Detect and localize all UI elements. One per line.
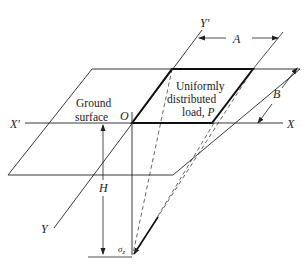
dimension-b-top-arrow — [282, 68, 297, 88]
y-label: Y — [41, 222, 49, 236]
stress-sigma-z-label: σz — [118, 244, 125, 255]
x-label: X — [286, 117, 295, 131]
load-label-line1: Uniformly — [176, 80, 225, 93]
load-p-label: P — [207, 106, 215, 118]
load-label-line3: load, P — [182, 106, 215, 119]
load-label-line2: distributed — [167, 93, 216, 105]
dimension-a-label: A — [232, 32, 241, 46]
y-prime-label: Y′ — [200, 16, 210, 30]
dimension-a-extension — [253, 32, 283, 69]
dimension-b-label: B — [273, 87, 281, 101]
origin-label: O — [120, 109, 129, 123]
stress-under-rectangular-load-diagram: Y′ Y X′ X O A B H Ground surface Uniform… — [0, 0, 307, 270]
sigma-subscript: z — [121, 248, 125, 255]
load-label-text: load, — [182, 106, 208, 119]
depth-h-label: H — [98, 181, 109, 195]
stress-arrow — [134, 217, 158, 254]
y-axis — [54, 30, 202, 228]
dimension-b-bottom-arrow — [258, 104, 272, 123]
ground-surface-label-line1: Ground — [76, 97, 111, 109]
ground-surface-label-line2: surface — [75, 111, 108, 123]
x-prime-label: X′ — [9, 117, 20, 131]
